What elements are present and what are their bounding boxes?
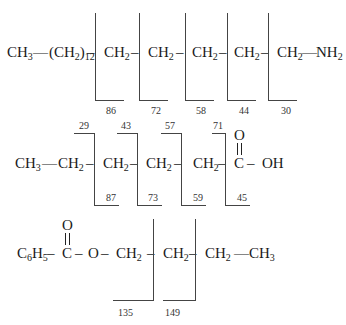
cleavage-line	[268, 100, 297, 101]
cleavage-line	[163, 300, 196, 301]
cleavage-line	[227, 100, 256, 101]
cleavage-line	[195, 219, 196, 301]
cleavage-line	[74, 133, 95, 134]
bond: –	[47, 246, 55, 261]
cleavage-line	[225, 205, 250, 206]
cleavage-line	[139, 13, 140, 101]
mz-label: 58	[196, 106, 206, 116]
double-bond	[237, 143, 242, 155]
bond: —	[302, 45, 317, 60]
acid-ch2: CH2	[193, 156, 219, 171]
mz-label: 71	[213, 121, 223, 131]
acid-ch3: CH3	[15, 156, 41, 171]
amine-ch2: CH2	[234, 45, 260, 60]
bond: –	[87, 45, 95, 60]
acid-ch2: CH2	[58, 156, 84, 171]
mz-label: 135	[118, 308, 133, 318]
ester-carbonyl-o: O	[62, 218, 73, 233]
ester-ch2: CH2	[163, 246, 189, 261]
acid-carbonyl-o: O	[234, 128, 245, 143]
acid-ch2: CH2	[146, 156, 172, 171]
cleavage-line	[181, 133, 182, 206]
cleavage-line	[225, 133, 226, 206]
cleavage-line	[95, 100, 124, 101]
bond: —	[234, 246, 249, 261]
amine-ch2: CH2	[148, 45, 174, 60]
mz-label: 57	[165, 121, 175, 131]
mz-label: 30	[281, 106, 291, 116]
bond: —	[42, 156, 57, 171]
amine-ch2: CH2	[192, 45, 218, 60]
cleavage-line	[268, 13, 269, 101]
cleavage-line	[113, 300, 154, 301]
ester-ch2: CH2	[116, 246, 142, 261]
ester-carbon: C	[62, 246, 72, 261]
cleavage-line	[181, 205, 206, 206]
acid-ch2: CH2	[103, 156, 129, 171]
cleavage-line	[139, 100, 168, 101]
mz-label: 73	[148, 193, 158, 203]
mz-label: 45	[237, 193, 247, 203]
bond: –	[101, 246, 109, 261]
amine-ch2: CH2	[104, 45, 130, 60]
ester-oxygen: O	[88, 246, 99, 261]
cleavage-line	[212, 133, 226, 134]
mz-label: 149	[165, 308, 180, 318]
cleavage-line	[185, 100, 214, 101]
ester-ch3: CH3	[249, 246, 275, 261]
cleavage-line	[185, 13, 186, 101]
cleavage-line	[153, 219, 154, 301]
ester-c6h5: C6H5	[17, 246, 48, 261]
cleavage-line	[137, 133, 138, 206]
mz-label: 86	[106, 106, 116, 116]
mz-label: 72	[151, 106, 161, 116]
bond: —	[33, 45, 48, 60]
cleavage-line	[94, 133, 95, 206]
amine-ch2: CH2	[277, 45, 303, 60]
cleavage-line	[95, 13, 96, 101]
bond: –	[176, 45, 184, 60]
mz-label: 43	[121, 121, 131, 131]
mz-label: 59	[193, 193, 203, 203]
mz-label: 87	[106, 193, 116, 203]
acid-carbon: C	[234, 156, 244, 171]
bond: –	[86, 156, 94, 171]
mz-label: 29	[79, 121, 89, 131]
double-bond	[65, 233, 70, 245]
cleavage-line	[227, 13, 228, 101]
mz-label: 44	[239, 106, 249, 116]
bond: –	[247, 156, 255, 171]
ester-ch2: CH2	[205, 246, 231, 261]
cleavage-line	[94, 205, 119, 206]
bond: –	[219, 45, 227, 60]
acid-oh: OH	[262, 156, 284, 171]
bond: –	[75, 246, 83, 261]
cleavage-line	[161, 133, 182, 134]
bond: –	[131, 45, 139, 60]
amine-nh2: NH2	[316, 45, 343, 60]
cleavage-line	[137, 205, 162, 206]
amine-ch3: CH3	[7, 45, 33, 60]
cleavage-line	[117, 133, 138, 134]
